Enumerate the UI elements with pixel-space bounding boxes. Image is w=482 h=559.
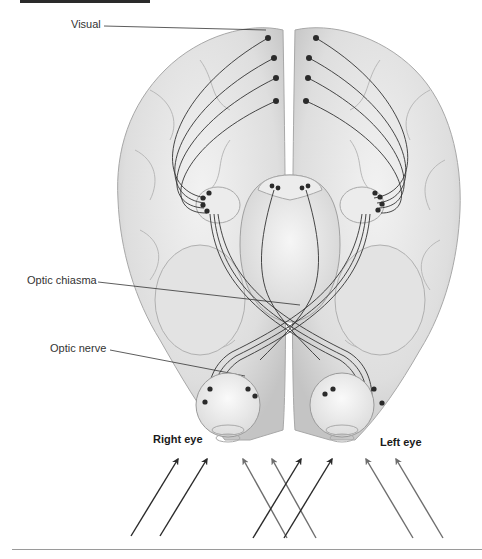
arrow-1 [131,459,178,536]
visual-label: Visual [71,18,101,30]
arrow-8 [396,459,443,538]
arrow-7 [366,459,413,538]
arrow-3 [243,459,287,538]
optic-chiasma-label: Optic chiasma [27,274,97,286]
footer-rule [12,549,482,550]
right-temporal-lobe [335,245,425,355]
arrow-2 [160,459,207,536]
left-eye-label: Left eye [380,436,422,448]
left-temporal-lobe [155,245,245,355]
arrow-6 [284,459,332,538]
light-arrows [131,459,443,538]
optic-nerve-label: Optic nerve [50,342,106,354]
right-eye-label: Right eye [153,433,203,445]
